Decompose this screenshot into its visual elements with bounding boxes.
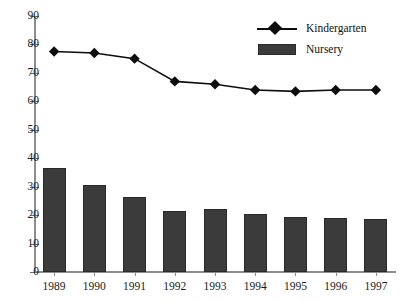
data-point-diamond-icon: [210, 79, 220, 89]
y-axis-tick-label: 40: [13, 152, 39, 164]
bar: [204, 209, 227, 272]
data-point-diamond-icon: [129, 53, 139, 63]
data-point-diamond-icon: [330, 85, 340, 95]
chart-legend: Kindergarten Nursery: [256, 20, 396, 62]
legend-item-nursery: Nursery: [256, 41, 396, 58]
y-axis-tick-label: 50: [13, 124, 39, 136]
y-axis-tick-label: 20: [13, 209, 39, 221]
x-axis-tick: [336, 272, 337, 276]
x-axis-tick: [54, 272, 55, 276]
legend-label-nursery: Nursery: [306, 42, 343, 56]
bar: [163, 211, 186, 272]
data-point-diamond-icon: [89, 48, 99, 58]
bar: [43, 168, 66, 272]
y-axis-tick-label: 60: [13, 95, 39, 107]
data-point-diamond-icon: [170, 76, 180, 86]
line-diamond-marker-icon: [256, 20, 298, 37]
x-axis-tick-label: 1990: [71, 280, 117, 293]
bar: [244, 214, 267, 272]
x-axis-tick-label: 1994: [232, 280, 278, 293]
x-axis-tick-label: 1993: [192, 280, 238, 293]
y-axis-tick-label: 90: [13, 10, 39, 22]
x-axis-tick: [94, 272, 95, 276]
y-axis-tick-label: 70: [13, 67, 39, 79]
bar: [284, 217, 307, 272]
y-axis-tick-label: 10: [13, 238, 39, 250]
x-axis-tick: [135, 272, 136, 276]
bar: [123, 197, 146, 272]
x-axis-tick-label: 1996: [313, 280, 359, 293]
x-axis-tick-label: 1991: [112, 280, 158, 293]
x-axis-tick-label: 1989: [31, 280, 77, 293]
x-axis-tick-label: 1995: [272, 280, 318, 293]
legend-item-kindergarten: Kindergarten: [256, 20, 396, 37]
data-point-diamond-icon: [371, 85, 381, 95]
filled-rectangle-swatch-icon: [256, 41, 298, 58]
x-axis-tick: [376, 272, 377, 276]
data-point-diamond-icon: [290, 86, 300, 96]
bar: [324, 218, 347, 272]
y-axis-tick-label: 80: [13, 38, 39, 50]
data-point-diamond-icon: [250, 85, 260, 95]
bar: [83, 185, 106, 272]
data-point-diamond-icon: [49, 46, 59, 56]
x-axis-tick: [255, 272, 256, 276]
x-axis-tick: [215, 272, 216, 276]
x-axis-tick-label: 1997: [353, 280, 399, 293]
x-axis-tick: [175, 272, 176, 276]
x-axis-tick: [295, 272, 296, 276]
x-axis-tick-label: 1992: [152, 280, 198, 293]
bar: [364, 219, 387, 272]
chart-container: 0102030405060708090 19891990199119921993…: [0, 0, 402, 302]
legend-label-kindergarten: Kindergarten: [306, 21, 366, 35]
y-axis-tick-label: 30: [13, 181, 39, 193]
y-axis-line: [34, 16, 36, 273]
y-axis-tick-label: 0: [13, 266, 39, 278]
